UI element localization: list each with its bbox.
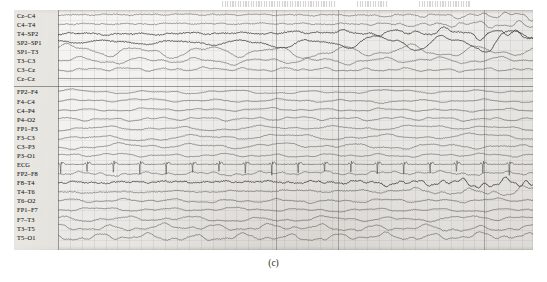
trace-p4-o2 — [58, 117, 533, 122]
trace-t3-t5 — [58, 223, 533, 231]
montage-group-separator — [14, 86, 533, 87]
channel-label-t6-o2: T6–O2 — [17, 197, 58, 204]
trace-cz-c4 — [58, 12, 533, 21]
channel-label-sp2-sp1: SP2–SP1 — [17, 39, 58, 46]
channel-label-f4-c4: F4–C4 — [17, 98, 58, 105]
channel-label-t4-sp2: T4–SP2 — [17, 30, 58, 37]
header-note-1 — [222, 1, 336, 7]
eeg-traces — [58, 10, 533, 250]
header-note-3 — [419, 1, 471, 7]
trace-c3-p3 — [58, 142, 533, 149]
trace-t4-sp2 — [58, 27, 533, 41]
channel-label-c4-p4: C4–P4 — [17, 107, 58, 114]
channel-label-t3-t5: T3–T5 — [17, 225, 58, 232]
channel-label-fp2-f8: FP2–F8 — [17, 170, 58, 177]
trace-t4-t6 — [58, 185, 533, 195]
trace-p3-o1 — [58, 153, 533, 157]
channel-label-fp2-f4: FP2–F4 — [17, 88, 58, 95]
channel-label-cz-cz: Cz–Cz — [17, 75, 58, 82]
trace-fp2-f4 — [58, 89, 533, 94]
channel-label-gutter: Cz–C4C4–T4T4–SP2SP2–SP1SP1–T3T3–C3C3–CzC… — [14, 10, 59, 250]
trace-f3-c3 — [58, 133, 533, 141]
header-note-2 — [357, 1, 388, 7]
channel-label-c3-p3: C3–P3 — [17, 143, 58, 150]
trace-sp2-sp1 — [58, 31, 533, 53]
channel-label-f3-c3: F3–C3 — [17, 134, 58, 141]
trace-f7-t3 — [58, 216, 533, 222]
trace-fp1-f7 — [58, 207, 533, 212]
channel-label-t4-t6: T4–T6 — [17, 188, 58, 195]
channel-label-fp1-f3: FP1–F3 — [17, 125, 58, 132]
channel-label-t5-o1: T5–O1 — [17, 234, 58, 241]
trace-t5-o1 — [58, 232, 533, 241]
trace-t3-c3 — [58, 56, 533, 65]
channel-label-fp1-f7: FP1–F7 — [17, 206, 58, 213]
trace-f4-c4 — [58, 98, 533, 103]
trace-c4-t4 — [58, 20, 533, 27]
channel-label-cz-c4: Cz–C4 — [17, 12, 58, 19]
trace-fp1-f3 — [58, 125, 533, 131]
channel-label-p4-o2: P4–O2 — [17, 116, 58, 123]
channel-label-ecg: ECG — [17, 161, 58, 168]
trace-sp1-t3 — [58, 43, 533, 58]
trace-t6-o2 — [58, 198, 533, 204]
channel-label-sp1-t3: SP1–T3 — [17, 48, 58, 55]
channel-label-c3-cz: C3–Cz — [17, 66, 58, 73]
figure-panel: Cz–C4C4–T4T4–SP2SP2–SP1SP1–T3T3–C3C3–CzC… — [0, 0, 547, 282]
channel-label-f7-t3: F7–T3 — [17, 216, 58, 223]
trace-fp2-f8 — [58, 170, 533, 176]
trace-f8-t4 — [58, 177, 533, 188]
channel-label-c4-t4: C4–T4 — [17, 21, 58, 28]
channel-label-f8-t4: F8–T4 — [17, 179, 58, 186]
eeg-recording-page: Cz–C4C4–T4T4–SP2SP2–SP1SP1–T3T3–C3C3–CzC… — [14, 10, 533, 250]
channel-label-t3-c3: T3–C3 — [17, 57, 58, 64]
waveform-plot-area — [58, 10, 533, 250]
trace-c3-cz — [58, 67, 533, 73]
trace-c4-p4 — [58, 108, 533, 113]
figure-caption: (c) — [0, 258, 547, 268]
channel-label-p3-o1: P3–O1 — [17, 152, 58, 159]
